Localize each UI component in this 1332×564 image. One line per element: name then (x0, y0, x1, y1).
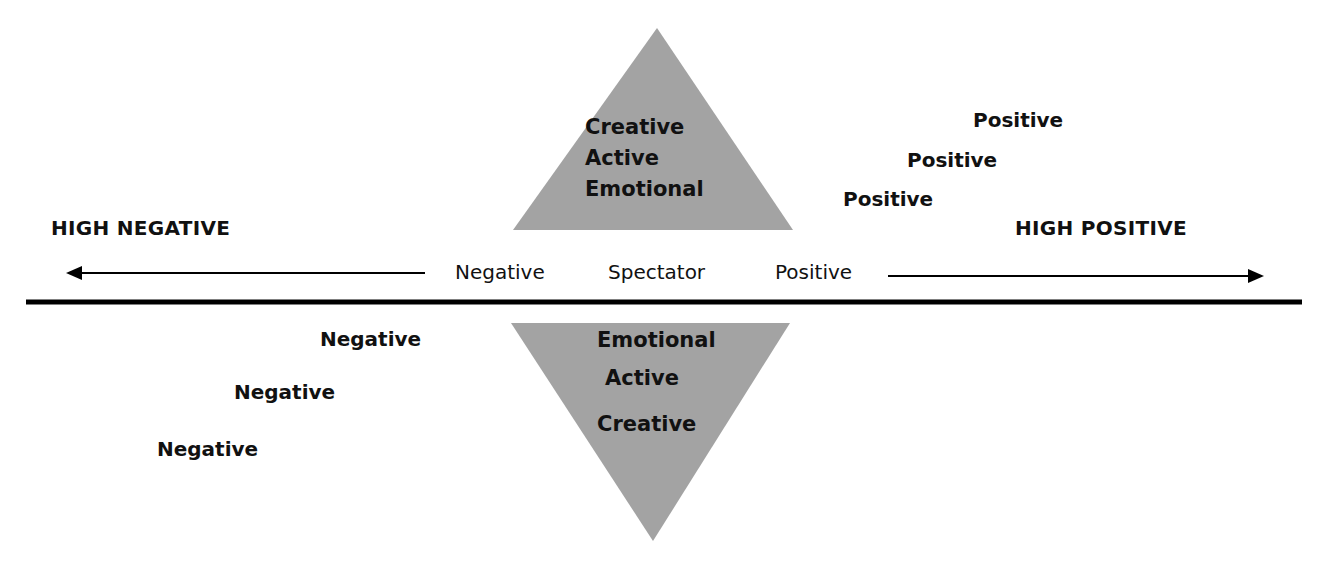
axis-label-positive: Positive (775, 260, 852, 284)
top-triangle-line-3: Emotional (585, 174, 704, 205)
bottom-triangle-line-2: Active (605, 356, 716, 400)
left-arrow-head-icon (66, 266, 82, 280)
axis-label-negative: Negative (455, 260, 545, 284)
top-triangle-labels: Creative Active Emotional (585, 112, 704, 205)
positive-step-3: Positive (843, 187, 933, 211)
right-arrow-head-icon (1248, 269, 1264, 283)
bottom-triangle-line-1: Emotional (597, 324, 716, 356)
positive-step-1: Positive (973, 108, 1063, 132)
positive-step-2: Positive (907, 148, 997, 172)
top-triangle-line-2: Active (585, 143, 704, 174)
negative-step-3: Negative (157, 437, 258, 461)
axis-label-spectator: Spectator (608, 260, 705, 284)
high-negative-label: HIGH NEGATIVE (51, 216, 230, 240)
negative-step-2: Negative (234, 380, 335, 404)
top-triangle-line-1: Creative (585, 112, 704, 143)
bottom-triangle-labels: Emotional Active Creative (597, 324, 716, 448)
high-positive-label: HIGH POSITIVE (1015, 216, 1187, 240)
bottom-triangle-line-3: Creative (597, 400, 716, 448)
negative-step-1: Negative (320, 327, 421, 351)
